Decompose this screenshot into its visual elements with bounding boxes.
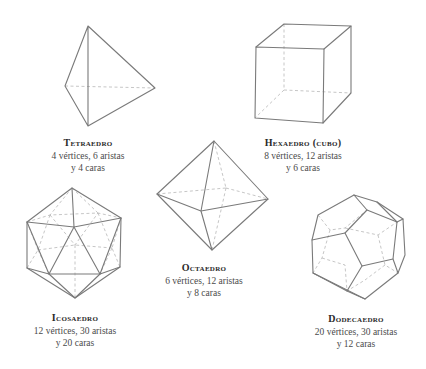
icosahedron-figure <box>27 188 121 298</box>
icosahedron-label: Icosaedro 12 vértices, 30 aristas y 20 c… <box>0 312 150 350</box>
solid-vertices-edges: 12 vértices, 30 aristas <box>0 325 150 338</box>
hexahedron-label: Hexaedro (cubo) 8 vértices, 12 aristas y… <box>228 137 378 175</box>
solid-name: Octaedro <box>129 262 279 275</box>
solid-name: Icosaedro <box>0 312 150 325</box>
solid-faces: y 8 caras <box>129 287 279 300</box>
solid-name: Tetraedro <box>13 137 163 150</box>
solid-faces: y 12 caras <box>281 338 426 351</box>
cube-figure <box>255 24 351 123</box>
solid-faces: y 6 caras <box>228 162 378 175</box>
solid-vertices-edges: 4 vértices, 6 aristas <box>13 150 163 163</box>
solid-faces: y 4 caras <box>13 162 163 175</box>
solid-name: Dodecaedro <box>281 313 426 326</box>
tetrahedron-figure <box>65 26 155 126</box>
solid-vertices-edges: 8 vértices, 12 aristas <box>228 150 378 163</box>
solid-vertices-edges: 6 vértices, 12 aristas <box>129 275 279 288</box>
tetrahedron-label: Tetraedro 4 vértices, 6 aristas y 4 cara… <box>13 137 163 175</box>
solid-vertices-edges: 20 vértices, 30 aristas <box>281 326 426 339</box>
solid-faces: y 20 caras <box>0 337 150 350</box>
octahedron-label: Octaedro 6 vértices, 12 aristas y 8 cara… <box>129 262 279 300</box>
dodecahedron-figure <box>312 195 405 299</box>
dodecahedron-label: Dodecaedro 20 vértices, 30 aristas y 12 … <box>281 313 426 351</box>
solid-name: Hexaedro (cubo) <box>228 137 378 150</box>
